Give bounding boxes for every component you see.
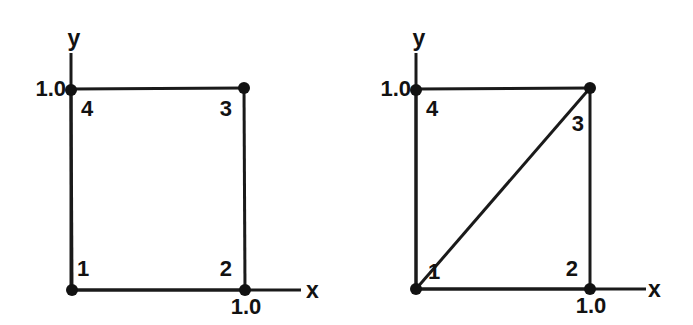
right-y-axis-label: y [413, 25, 426, 51]
left-node-1-dot [66, 284, 78, 296]
right-edge-1-3-diagonal [416, 88, 590, 289]
right-node-4-dot [410, 84, 422, 96]
right-y-tick-label: 1.0 [380, 76, 411, 101]
left-node-4-dot [65, 84, 77, 96]
panel-left: y x 1.0 1.0 1 2 3 4 [35, 25, 319, 319]
left-y-tick-label: 1.0 [35, 76, 66, 101]
left-node-1-label: 1 [77, 256, 89, 281]
left-node-3-label: 3 [220, 96, 232, 121]
left-x-axis-label: x [306, 277, 319, 303]
right-node-1-label: 1 [428, 259, 440, 284]
left-edge-4-3 [71, 88, 245, 89]
right-node-3-dot [584, 82, 596, 94]
right-node-1-dot [410, 283, 422, 295]
left-node-2-label: 2 [220, 256, 232, 281]
right-edge-4-3 [416, 88, 591, 89]
left-edge-3-2 [244, 88, 245, 291]
right-node-4-label: 4 [426, 96, 439, 121]
right-node-2-label: 2 [566, 256, 578, 281]
left-x-tick-label: 1.0 [231, 294, 262, 319]
left-node-4-label: 4 [81, 96, 94, 121]
left-node-3-dot [238, 82, 250, 94]
panel-right: y x 1.0 1.0 1 2 3 4 [380, 25, 661, 318]
figure-container: y x 1.0 1.0 1 2 3 4 [0, 0, 693, 325]
diagram-canvas: y x 1.0 1.0 1 2 3 4 [0, 0, 693, 325]
right-x-axis-label: x [648, 276, 661, 302]
right-x-tick-label: 1.0 [576, 293, 607, 318]
left-edge-4-1 [71, 90, 72, 290]
right-node-3-label: 3 [572, 111, 584, 136]
left-y-axis-label: y [68, 25, 81, 51]
